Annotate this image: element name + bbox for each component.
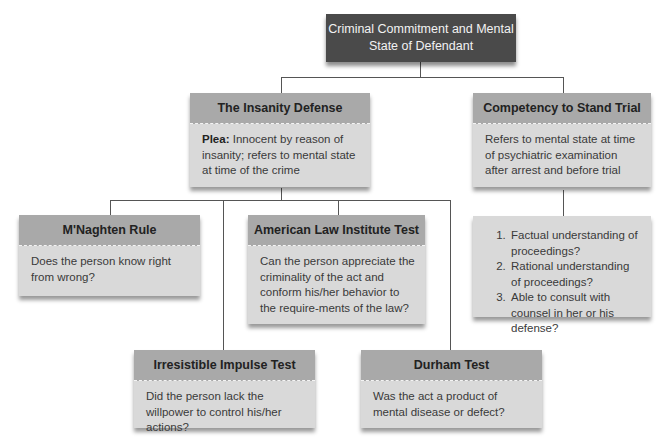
- durham-title: Durham Test: [361, 350, 542, 381]
- root-title: Criminal Commitment and Mental State of …: [326, 21, 516, 55]
- mnaghten-question: Does the person know right from wrong?: [19, 246, 200, 293]
- connector: [338, 200, 339, 215]
- irresistible-impulse-question: Did the person lack the willpower to con…: [134, 381, 315, 444]
- criteria-item: Factual understanding of proceedings?: [509, 228, 641, 259]
- insanity-defense-body: Plea: Innocent by reason of insanity; re…: [190, 124, 370, 187]
- competency-description: Refers to mental state at time of psychi…: [473, 124, 651, 187]
- connector: [281, 77, 282, 93]
- connector: [110, 200, 451, 201]
- connector: [563, 77, 564, 93]
- insanity-defense-node: The Insanity Defense Plea: Innocent by r…: [190, 93, 370, 187]
- connector: [450, 200, 451, 350]
- connector: [281, 77, 564, 78]
- ali-title: American Law Institute Test: [248, 215, 425, 246]
- irresistible-impulse-node: Irresistible Impulse Test Did the person…: [134, 350, 315, 428]
- mnaghten-title: M'Naghten Rule: [19, 215, 200, 246]
- ali-node: American Law Institute Test Can the pers…: [248, 215, 425, 324]
- connector: [223, 200, 224, 350]
- connector: [563, 190, 564, 216]
- competency-node: Competency to Stand Trial Refers to ment…: [473, 93, 651, 187]
- connector: [110, 200, 111, 215]
- ali-question: Can the person appreciate the criminalit…: [248, 246, 425, 324]
- root-node: Criminal Commitment and Mental State of …: [326, 14, 516, 62]
- competency-criteria-node: Factual understanding of proceedings? Ra…: [473, 216, 651, 317]
- connector: [281, 188, 282, 200]
- criteria-item: Rational understanding of proceedings?: [509, 259, 641, 290]
- plea-label: Plea:: [202, 133, 230, 145]
- insanity-defense-title: The Insanity Defense: [190, 93, 370, 124]
- competency-title: Competency to Stand Trial: [473, 93, 651, 124]
- criteria-item: Able to consult with counsel in her or h…: [509, 290, 641, 337]
- mnaghten-node: M'Naghten Rule Does the person know righ…: [19, 215, 200, 296]
- durham-question: Was the act a product of mental disease …: [361, 381, 542, 428]
- connector: [420, 62, 421, 77]
- competency-criteria-list: Factual understanding of proceedings? Ra…: [473, 216, 651, 345]
- durham-node: Durham Test Was the act a product of men…: [361, 350, 542, 428]
- irresistible-impulse-title: Irresistible Impulse Test: [134, 350, 315, 381]
